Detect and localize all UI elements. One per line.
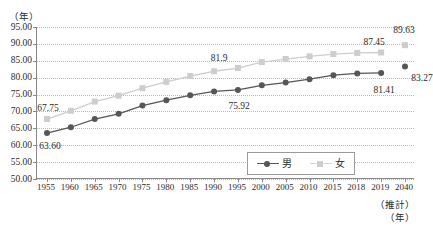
x-axis-label: 1995 [228, 183, 246, 192]
x-axis-label: 2005 [276, 183, 294, 192]
y-axis-label: 55.00 [0, 158, 32, 168]
x-axis-label: 2010 [300, 183, 318, 192]
y-axis-label: 50.00 [0, 175, 32, 185]
value-label-female-1990: 81.9 [211, 54, 228, 64]
x-axis-label: 1965 [85, 183, 103, 192]
data-point [259, 82, 265, 88]
x-axis-label: 1960 [61, 183, 79, 192]
data-point [163, 79, 169, 85]
x-axis-label: 1980 [156, 183, 174, 192]
legend-item-male[interactable]: 男 [257, 159, 292, 169]
data-point [378, 70, 384, 76]
female-marker-icon [310, 159, 332, 169]
data-point [330, 51, 336, 57]
y-axis-unit-label: （年） [9, 9, 39, 23]
series-layer [37, 27, 415, 179]
data-point [378, 50, 384, 56]
data-point [116, 93, 122, 99]
x-axis-label: 2018 [347, 183, 365, 192]
data-point [187, 92, 193, 98]
y-axis-label: 60.00 [0, 141, 32, 151]
data-point [283, 56, 289, 62]
legend-label-female: 女 [335, 159, 345, 169]
y-axis-tick [33, 179, 37, 180]
value-label-male-1990: 75.92 [228, 102, 249, 112]
data-point [68, 108, 74, 114]
x-axis-label: 1990 [204, 183, 222, 192]
data-point [44, 116, 50, 122]
x-axis-label: 2019 [371, 183, 389, 192]
male-marker-icon [257, 159, 279, 169]
value-label-female-1955: 67.75 [37, 104, 58, 114]
data-point [139, 85, 145, 91]
legend-item-female[interactable]: 女 [310, 159, 345, 169]
data-point [211, 68, 217, 74]
x-axis-label: 1955 [37, 183, 55, 192]
data-point [307, 53, 313, 59]
value-label-male-2019: 81.41 [373, 86, 394, 96]
y-axis-label: 65.00 [0, 124, 32, 134]
data-point [354, 70, 360, 76]
x-axis-unit-label: （年） [385, 210, 415, 224]
data-point [187, 73, 193, 79]
data-point [354, 50, 360, 56]
data-point [139, 103, 145, 109]
data-point [307, 76, 313, 82]
x-axis-label: 2015 [323, 183, 341, 192]
value-label-male-1955: 63.60 [39, 142, 60, 152]
data-point [402, 42, 408, 48]
x-axis-label: 2040 [395, 183, 413, 192]
data-point [92, 116, 98, 122]
data-point [68, 124, 74, 130]
x-axis-projection-note: （推計） [375, 197, 415, 211]
data-point [211, 88, 217, 94]
y-axis-label: 90.00 [0, 39, 32, 49]
data-point [402, 64, 408, 70]
value-label-female-2019: 87.45 [363, 38, 384, 48]
y-axis-label: 80.00 [0, 73, 32, 83]
x-axis-label: 1985 [180, 183, 198, 192]
data-point [163, 97, 169, 103]
x-axis-label: 2000 [252, 183, 270, 192]
value-label-male-2040: 83.27 [411, 74, 432, 84]
plot-area [36, 27, 414, 179]
legend: 男 女 [247, 152, 355, 175]
x-axis-label: 1970 [109, 183, 127, 192]
y-axis-label: 75.00 [0, 90, 32, 100]
data-point [259, 59, 265, 65]
data-point [235, 65, 241, 71]
data-point [116, 111, 122, 117]
value-label-female-2040: 89.63 [393, 26, 414, 36]
data-point [235, 87, 241, 93]
y-axis-label: 85.00 [0, 56, 32, 66]
legend-label-male: 男 [282, 159, 292, 169]
data-point [44, 130, 50, 136]
data-point [92, 99, 98, 105]
x-axis-label: 1975 [132, 183, 150, 192]
y-axis-label: 70.00 [0, 107, 32, 117]
y-axis-label: 95.00 [0, 23, 32, 33]
data-point [283, 80, 289, 86]
data-point [330, 72, 336, 78]
